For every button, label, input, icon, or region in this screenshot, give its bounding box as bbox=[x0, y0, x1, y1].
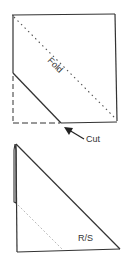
cut-arrow-shaft bbox=[69, 130, 84, 139]
right-side-label: R/S bbox=[78, 233, 93, 243]
folded-square-figure: Fold bbox=[12, 14, 117, 123]
fold-label: Fold bbox=[46, 55, 65, 74]
square-bottom-edge bbox=[61, 122, 117, 123]
cut-line bbox=[13, 73, 61, 123]
cut-label: Cut bbox=[86, 134, 101, 144]
inner-fold-guide bbox=[18, 205, 63, 250]
triangle-hypotenuse bbox=[16, 144, 120, 249]
folded-triangle-figure: R/S bbox=[14, 144, 120, 252]
triangle-left-edge bbox=[16, 144, 17, 252]
fold-and-cut-diagram: Fold Cut R/S bbox=[0, 0, 131, 263]
triangle-bottom-edge bbox=[17, 249, 120, 252]
fold-line bbox=[14, 17, 116, 119]
square-right-edge bbox=[115, 14, 117, 121]
square-top-edge bbox=[12, 14, 115, 15]
cut-annotation: Cut bbox=[64, 127, 101, 144]
